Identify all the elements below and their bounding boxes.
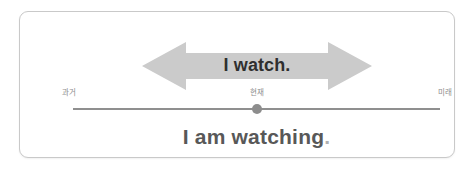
timeline-label-future: 미래 [416, 86, 452, 97]
bottom-text-main: I am watching [183, 125, 324, 149]
timeline-present-dot [252, 104, 262, 114]
timeline-label-present: 현재 [227, 86, 287, 97]
timeline-label-past: 과거 [62, 86, 98, 97]
diagram-canvas: I watch. 과거 현재 미래 I am watching. [0, 0, 473, 169]
arrow-text-i-watch: I watch. [157, 52, 357, 78]
bottom-text-i-am-watching: I am watching. [20, 122, 473, 152]
bottom-text-period: . [324, 125, 330, 149]
diagram-card: I watch. 과거 현재 미래 I am watching. [19, 11, 455, 158]
